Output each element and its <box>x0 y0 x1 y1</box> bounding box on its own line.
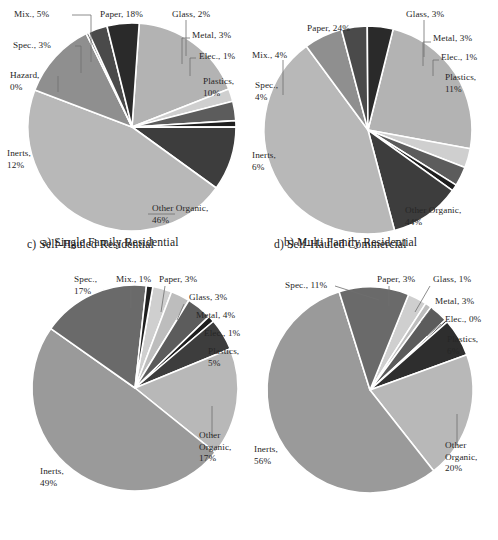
label-paper: Paper, 3% <box>159 274 197 286</box>
label-other-organic-text: Organic, <box>445 452 478 464</box>
label-paper-text: Paper, 24% <box>307 23 350 35</box>
label-other-organic-text: 46% <box>152 215 208 227</box>
label-mixed-text: Mix., 5% <box>14 9 49 21</box>
label-plastics-text: 10% <box>203 88 234 100</box>
label-glass: Glass, 1% <box>433 274 471 286</box>
label-metal-text: Metal, 3% <box>192 30 231 42</box>
label-special-text: 17% <box>74 286 97 298</box>
label-electronics-text: Elec., 0% <box>445 314 481 326</box>
label-electronics: Elec., 1% <box>199 51 235 63</box>
label-electronics: Elec., 1% <box>204 328 240 340</box>
label-other-organic-text: 20% <box>445 463 478 475</box>
label-plastics-text: 11% <box>445 84 476 96</box>
label-special-text: Spec., 11% <box>285 280 327 292</box>
label-mixed: Mix., 4% <box>252 50 287 62</box>
label-electronics-text: Elec., 1% <box>199 51 235 63</box>
label-other-organic-text: Other Organic, <box>405 205 461 217</box>
label-plastics-text: 5% <box>208 358 239 370</box>
label-other-organic: Other Organic,44% <box>405 205 461 228</box>
label-paper-text: Paper, 3% <box>377 274 415 286</box>
label-special: Spec.,17% <box>74 274 97 297</box>
label-electronics: Elec., 1% <box>441 52 477 64</box>
label-paper: Paper, 3% <box>377 274 415 286</box>
label-other-organic: OtherOrganic,20% <box>445 440 478 475</box>
label-inerts: Inerts,49% <box>40 466 64 489</box>
pie-panel-a: Mix., 5%Paper, 18%Glass, 2%Metal, 3%Spec… <box>0 0 249 270</box>
label-inerts-text: 6% <box>252 162 276 174</box>
label-metal-text: Metal, 3% <box>435 296 474 308</box>
label-plastics: Plastics,10% <box>203 76 234 99</box>
label-paper: Paper, 18% <box>100 9 143 21</box>
label-special-text: 4% <box>255 92 278 104</box>
label-other-organic-text: Other <box>199 430 232 442</box>
label-glass-text: Glass, 3% <box>189 292 227 304</box>
label-inerts-text: Inerts, <box>7 148 31 160</box>
panel-caption-c: c) Self-Hauled Residential <box>27 238 154 251</box>
label-hazardous: Hazard,0% <box>10 70 40 93</box>
label-plastics-text: Plastics, <box>445 72 476 84</box>
pie-panel-b: Paper, 24%Glass, 3%Metal, 3%Mix., 4%Elec… <box>249 0 498 270</box>
label-metal: Metal, 3% <box>192 30 231 42</box>
label-paper: Paper, 24% <box>307 23 350 35</box>
label-plastics-text: Plastics, <box>447 334 478 346</box>
label-other-organic-text: Other <box>445 440 478 452</box>
label-glass-text: Glass, 3% <box>406 9 444 21</box>
label-inerts: Inerts,6% <box>252 150 276 173</box>
label-mixed-text: Mix., 1% <box>116 274 151 286</box>
label-mixed: Mix., 1% <box>116 274 151 286</box>
pie-panel-c: Spec.,17%Mix., 1%Paper, 3%Glass, 3%Metal… <box>0 266 249 536</box>
label-other-organic-text: 44% <box>405 217 461 229</box>
label-electronics-text: Elec., 1% <box>441 52 477 64</box>
label-other-organic: OtherOrganic,17% <box>199 430 232 465</box>
label-paper-text: Paper, 3% <box>159 274 197 286</box>
label-metal-text: Metal, 3% <box>433 33 472 45</box>
label-special-text: Spec., <box>74 274 97 286</box>
label-inerts-text: Inerts, <box>252 150 276 162</box>
label-special: Spec., 11% <box>285 280 327 292</box>
label-inerts-text: Inerts, <box>254 444 278 456</box>
label-mixed: Mix., 5% <box>14 9 49 21</box>
label-plastics: Plastics,5% <box>208 346 239 369</box>
label-glass-text: Glass, 1% <box>433 274 471 286</box>
label-electronics: Elec., 0% <box>445 314 481 326</box>
label-inerts-text: 56% <box>254 456 278 468</box>
label-plastics: Plastics,6% <box>447 334 478 357</box>
label-hazardous-text: Hazard, <box>10 70 40 82</box>
panel-caption-d: d) Self-Hauled Commercial <box>274 238 407 251</box>
label-special-text: Spec., <box>255 80 278 92</box>
label-plastics: Plastics,11% <box>445 72 476 95</box>
label-glass-text: Glass, 2% <box>172 9 210 21</box>
label-metal: Metal, 3% <box>435 296 474 308</box>
label-special: Spec.,4% <box>255 80 278 103</box>
label-special-text: Spec., 3% <box>13 40 51 52</box>
waste-composition-figure: Mix., 5%Paper, 18%Glass, 2%Metal, 3%Spec… <box>0 0 498 540</box>
label-hazardous-text: 0% <box>10 82 40 94</box>
label-other-organic-text: Organic, <box>199 442 232 454</box>
label-metal: Metal, 4% <box>196 310 235 322</box>
label-other-organic-text: 17% <box>199 453 232 465</box>
label-special: Spec., 3% <box>13 40 51 52</box>
label-inerts-text: Inerts, <box>40 466 64 478</box>
label-plastics-text: 6% <box>447 346 478 358</box>
label-electronics-text: Elec., 1% <box>204 328 240 340</box>
label-other-organic-text: Other Organic, <box>152 203 208 215</box>
label-inerts-text: 12% <box>7 160 31 172</box>
label-plastics-text: Plastics, <box>208 346 239 358</box>
label-metal-text: Metal, 4% <box>196 310 235 322</box>
label-mixed-text: Mix., 4% <box>252 50 287 62</box>
label-inerts: Inerts,56% <box>254 444 278 467</box>
label-inerts: Inerts,12% <box>7 148 31 171</box>
pie-chart-c <box>0 266 249 536</box>
label-other-organic: Other Organic,46% <box>152 203 208 226</box>
label-inerts-text: 49% <box>40 478 64 490</box>
label-glass: Glass, 3% <box>406 9 444 21</box>
label-glass: Glass, 3% <box>189 292 227 304</box>
label-plastics-text: Plastics, <box>203 76 234 88</box>
label-metal: Metal, 3% <box>433 33 472 45</box>
label-glass: Glass, 2% <box>172 9 210 21</box>
label-paper-text: Paper, 18% <box>100 9 143 21</box>
pie-panel-d: Spec., 11%Paper, 3%Glass, 1%Metal, 3%Ele… <box>249 266 498 536</box>
